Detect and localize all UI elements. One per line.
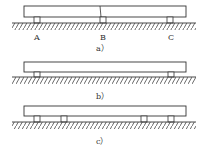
caption-c: c） — [96, 137, 108, 146]
support-2 — [61, 116, 67, 122]
support-1 — [34, 116, 40, 122]
beam — [24, 6, 186, 17]
ground-hatch — [12, 77, 196, 84]
support-b — [100, 17, 106, 23]
caption-b: b） — [96, 92, 109, 101]
ground-hatch — [12, 23, 196, 30]
support-right — [168, 72, 174, 77]
support-left — [34, 72, 40, 77]
support-4 — [168, 116, 174, 122]
label-a: A — [33, 33, 40, 42]
diagram-c: c） — [12, 106, 196, 146]
diagram-a: A B C a） — [12, 6, 196, 53]
label-c: C — [168, 33, 174, 42]
support-a — [34, 17, 40, 23]
beam — [24, 106, 186, 116]
beam — [24, 62, 186, 72]
support-3 — [141, 116, 147, 122]
support-c — [167, 17, 173, 23]
diagram-b: b） — [12, 62, 196, 101]
ground-hatch — [12, 122, 196, 129]
beam-support-diagram: A B C a） b） c） — [0, 0, 207, 157]
label-b: B — [100, 33, 106, 42]
caption-a: a） — [96, 44, 109, 53]
